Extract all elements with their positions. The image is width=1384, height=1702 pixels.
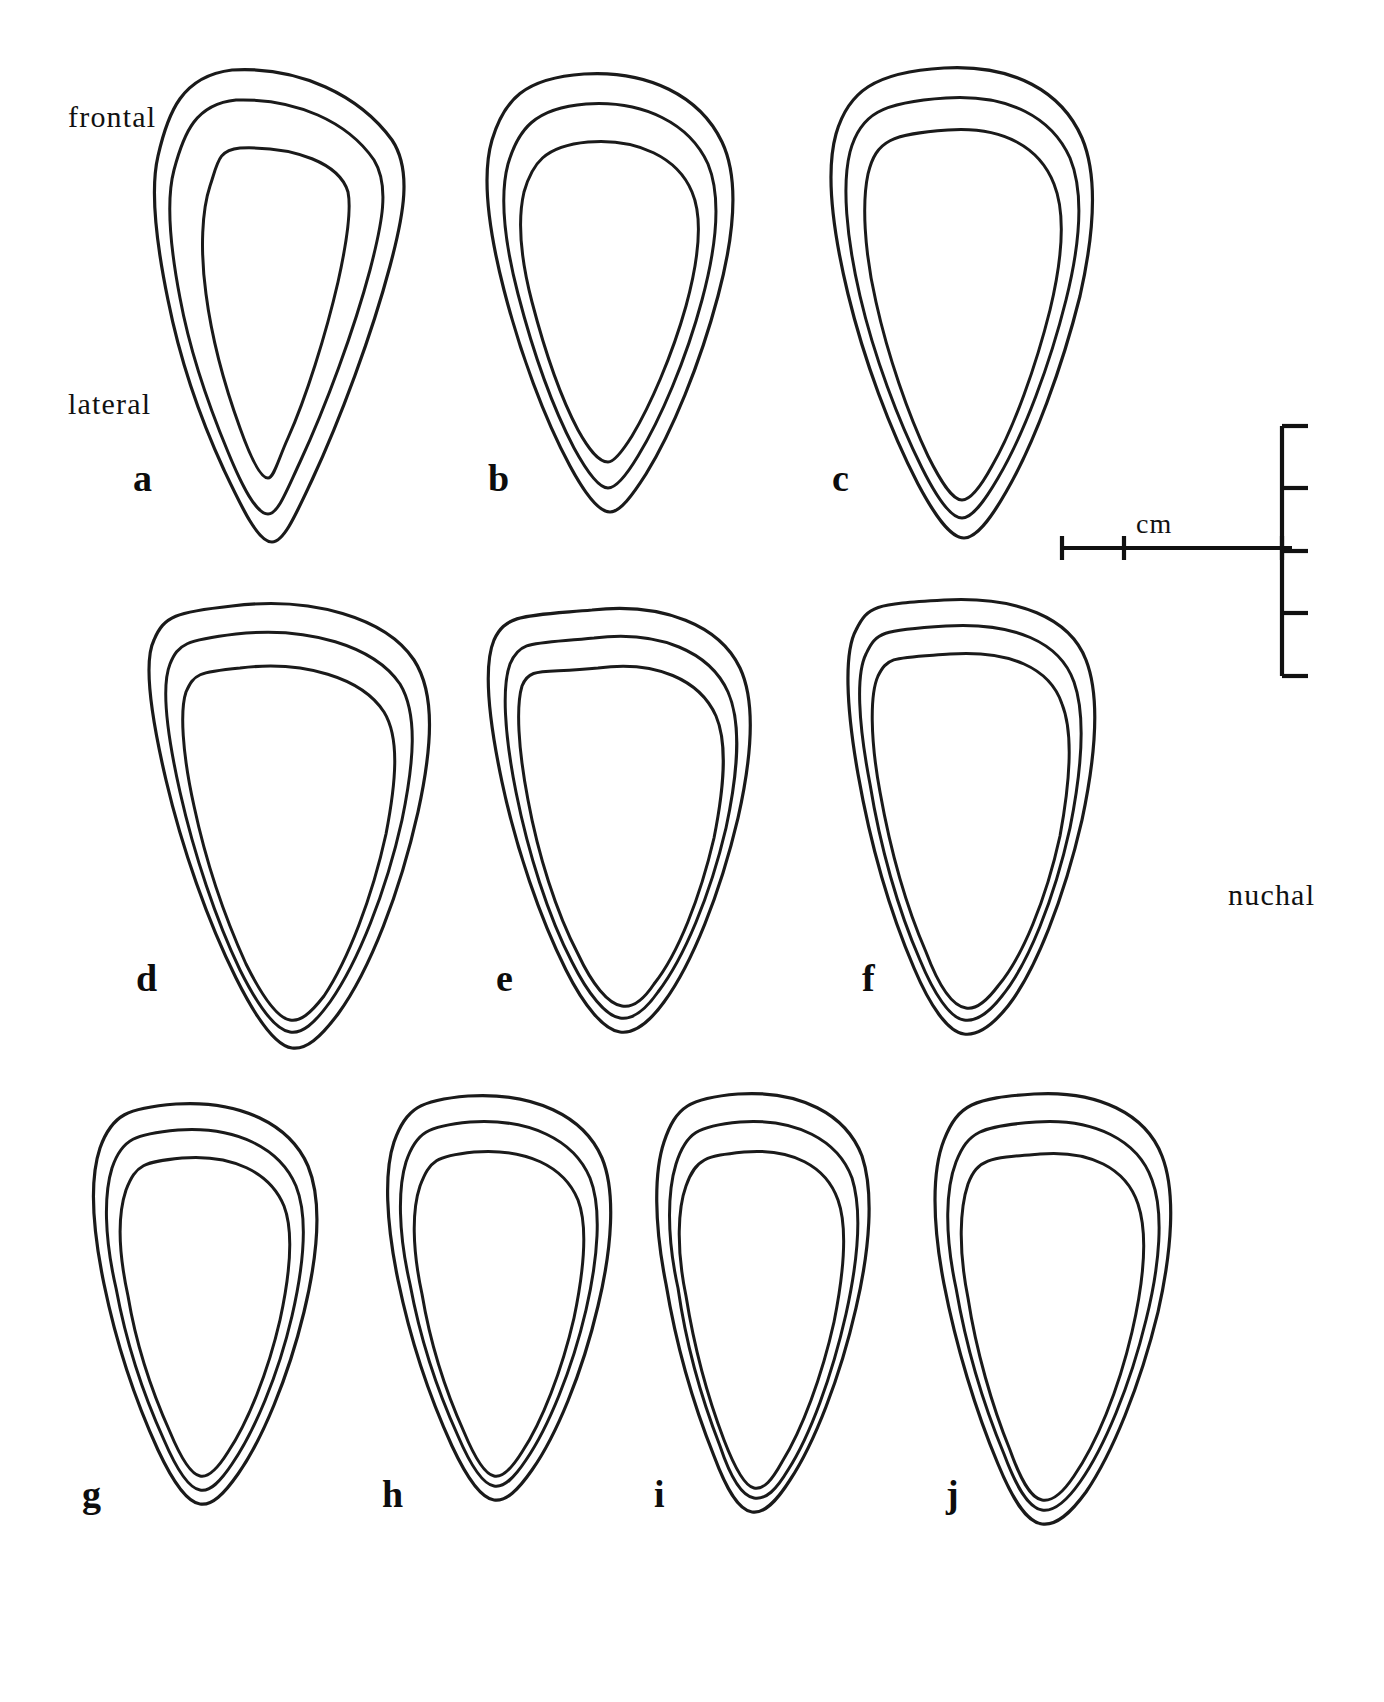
panel-j-outlines [935,1094,1171,1525]
panel-b-outlines [487,74,733,512]
panel-d-inner-contour [183,666,395,1020]
panel-f-middle-contour [860,625,1082,1020]
panel-c-middle-contour [846,98,1079,518]
scale-bar-unit-label: cm [1136,508,1172,540]
orientation-label-frontal: frontal [68,100,156,134]
panel-i-inner-contour [679,1151,844,1488]
panel-h-middle-contour [400,1122,597,1487]
panel-b-middle-contour [504,104,716,488]
panel-h-inner-contour [414,1151,584,1476]
panel-g-middle-contour [106,1130,303,1491]
panel-c-inner-contour [865,130,1062,500]
panel-label-b: b [488,456,509,500]
panel-i-outlines [657,1094,869,1513]
panel-i-middle-contour [670,1122,858,1499]
panel-c-outlines [831,68,1092,538]
panel-label-i: i [654,1472,665,1516]
panel-label-c: c [832,456,849,500]
panel-f-inner-contour [872,653,1069,1008]
panel-d-outlines [149,604,429,1049]
panel-a-outlines [154,70,404,542]
panel-label-j: j [946,1472,959,1516]
panel-b-outer-contour [487,74,733,512]
panel-label-h: h [382,1472,403,1516]
scale-bar-vertical-ticks [1282,426,1308,676]
panel-g-outlines [94,1104,317,1505]
orientation-label-lateral: lateral [68,387,151,421]
panel-a-middle-contour [170,100,383,514]
panel-label-f: f [862,956,875,1000]
panel-label-g: g [82,1472,101,1516]
panel-j-inner-contour [961,1153,1143,1500]
panel-a-inner-contour [203,148,350,478]
panel-h-outlines [388,1096,611,1501]
outline-drawings-canvas [0,0,1384,1702]
panel-label-e: e [496,956,513,1000]
scale-bar [1062,426,1308,676]
panel-a-outer-contour [154,70,404,542]
panel-e-outlines [488,608,750,1032]
panel-j-middle-contour [948,1122,1159,1511]
panel-f-outlines [848,600,1095,1035]
orientation-label-nuchal: nuchal [1228,878,1315,912]
panel-label-a: a [133,456,152,500]
panel-d-middle-contour [166,632,412,1032]
panel-b-inner-contour [521,141,699,462]
figure-root: frontal lateral nuchal cm a b c d e f g … [0,0,1384,1702]
panel-e-outer-contour [488,608,750,1032]
panel-label-d: d [136,956,157,1000]
